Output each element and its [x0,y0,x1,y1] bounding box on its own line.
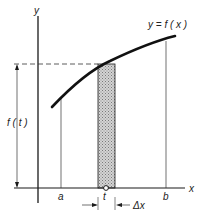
point-a-label: a [58,191,64,202]
point-t-marker [104,186,109,191]
delta-x-label: Δx [132,200,146,211]
arrow-down-icon [15,182,19,188]
arrow-right-icon [92,203,98,207]
curve-label: y = f ( x ) [147,19,187,30]
point-t-label: t [103,191,107,202]
riemann-strip-diagram: y x y = f ( x ) f ( t ) a t b Δx [0,0,201,216]
point-b-label: b [163,191,169,202]
height-label: f ( t ) [7,117,28,128]
x-axis-label: x [188,183,195,194]
shaded-strip [98,64,115,188]
arrow-up-icon [15,64,19,70]
y-axis-label: y [33,5,40,16]
